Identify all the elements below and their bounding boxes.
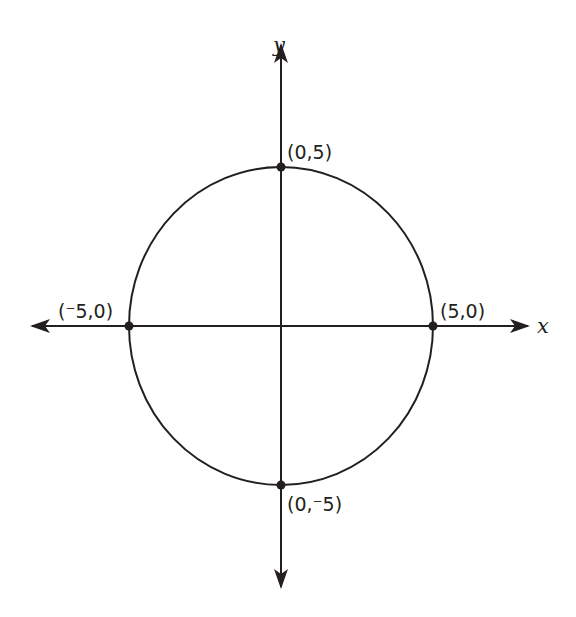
point-label-top: (0,5)	[287, 141, 332, 163]
x-axis-label: x	[537, 314, 549, 338]
point-left	[125, 322, 134, 331]
point-label-right: (5,0)	[440, 300, 485, 322]
point-label-bottom: (0,⁻5)	[287, 493, 342, 515]
circle-diagram: y x (0,5) (⁻5,0) (5,0) (0,⁻5)	[0, 0, 576, 617]
point-right	[429, 322, 438, 331]
point-top	[277, 163, 286, 172]
y-axis-label: y	[272, 33, 286, 57]
point-bottom	[277, 481, 286, 490]
point-label-left: (⁻5,0)	[58, 300, 113, 322]
